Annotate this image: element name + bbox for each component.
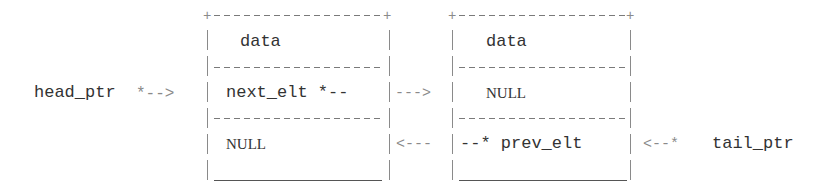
node-1-bottom-border <box>214 180 382 181</box>
node-1-divider-1 <box>214 67 384 68</box>
node-2-prev-field: --* prev_elt <box>460 135 582 152</box>
node-2-top-border <box>459 15 627 16</box>
backward-link-arrow: <--- <box>396 137 432 152</box>
node-2-corner-tr: + <box>626 9 634 23</box>
node-1-divider-2 <box>214 118 384 119</box>
tail-pointer-label: tail_ptr <box>712 135 794 152</box>
node-2-next-field: NULL <box>486 86 526 101</box>
head-pointer-label: head_ptr <box>34 84 116 101</box>
node-1-top-border <box>214 15 384 16</box>
tail-pointer-arrow: <--* <box>643 137 679 152</box>
node-2-data-field: data <box>486 33 527 50</box>
node-2-bottom-border <box>459 180 627 181</box>
node-2-corner-tl: + <box>448 9 456 23</box>
head-pointer-arrow: *--> <box>136 86 174 102</box>
node-1-next-field: next_elt *-- <box>226 84 348 101</box>
node-1-corner-tr: + <box>383 9 391 23</box>
node-1-data-field: data <box>240 33 281 50</box>
node-2-divider-2 <box>459 118 627 119</box>
forward-link-arrow: ---> <box>395 86 431 101</box>
node-1-corner-tl: + <box>203 9 211 23</box>
node-1-prev-field: NULL <box>226 137 266 152</box>
node-2-divider-1 <box>459 67 627 68</box>
